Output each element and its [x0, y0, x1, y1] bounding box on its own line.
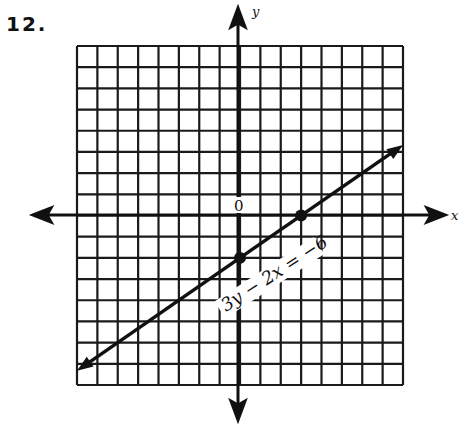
y-intercept-point: [234, 252, 246, 264]
equation-label-group: 3y − 2x = −6: [213, 231, 331, 319]
origin-label: 0: [234, 197, 244, 215]
y-axis-arrow-down-icon: [231, 401, 245, 420]
y-axis-label: y: [251, 4, 260, 19]
equation-label: 3y − 2x = −6: [217, 231, 331, 316]
x-axis-arrow-right-icon: [427, 208, 445, 222]
x-axis-label: x: [451, 208, 459, 223]
x-intercept-point: [295, 210, 307, 222]
coordinate-graph: x y 0 3y − 2x = −6: [0, 0, 465, 425]
x-axis-arrow-left-icon: [33, 208, 51, 222]
y-axis-arrow-up-icon: [231, 8, 245, 27]
